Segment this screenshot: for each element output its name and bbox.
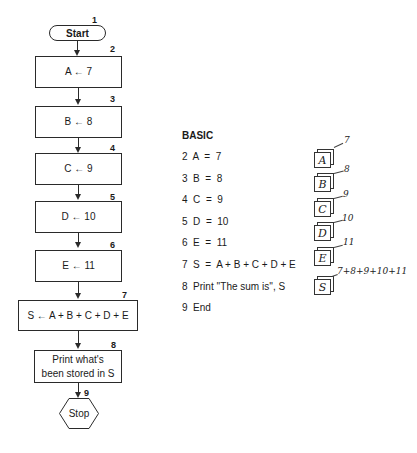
memory-cell-b: B [314,176,331,192]
pointer-arrow-icon [334,245,343,248]
memory-cell-d: D [314,225,331,241]
arrow-down-icon [75,343,81,349]
basic-line-5: 5 D = 10 [182,216,228,227]
basic-line-7: 7 S = A + B + C + D + E [182,259,296,270]
basic-title: BASIC [182,130,213,141]
memory-cell-label: S [314,279,331,295]
pointer-arrow-icon [334,196,343,199]
process-box-a: A ← 7 [35,56,122,88]
step-number-1: 1 [92,15,97,25]
process-box-e: E ← 11 [35,250,122,282]
memory-cell-value: 10 [342,213,353,223]
step-number-3: 3 [110,94,115,104]
step-number-8: 8 [111,340,116,350]
basic-line-8: 8 Print ''The sum is'', S [182,281,285,292]
memory-cell-label: E [314,250,331,266]
basic-line-4: 4 C = 9 [182,194,223,205]
basic-line-2: 2 A = 7 [182,151,221,162]
arrow-down-icon [75,99,81,105]
pointer-arrow-icon [334,143,343,148]
memory-cell-value: 11 [343,237,354,247]
step-number-4: 4 [110,143,115,153]
process-box-sum: S ← A + B + C + D + E [18,300,138,331]
process-box-d: D ← 10 [35,201,122,233]
memory-cell-c: C [314,201,331,217]
process-box-b: B ← 8 [35,106,122,138]
process-box-c: C ← 9 [35,153,122,185]
memory-cell-e: E [314,250,331,266]
step-number-7: 7 [122,290,127,300]
arrow-down-icon [75,194,81,200]
memory-cell-value: 8 [344,164,350,174]
basic-line-3: 3 B = 8 [182,173,222,184]
memory-cell-value: 7 [344,135,350,145]
stop-terminal: Stop [59,398,99,429]
arrow-down-icon [75,293,81,299]
basic-line-9: 9 End [182,302,211,313]
memory-cell-a: A [314,152,331,168]
arrow-down-icon [75,242,81,248]
step-number-9: 9 [84,388,89,398]
pointer-arrow-icon [334,170,344,174]
step-number-2: 2 [110,44,115,54]
step-number-6: 6 [110,240,115,250]
memory-cell-label: B [314,176,331,192]
memory-cell-label: D [314,225,331,241]
memory-cell-value: 7+8+9+10+11 [337,266,407,276]
basic-line-6: 6 E = 11 [182,237,227,248]
memory-cell-value: 9 [343,189,349,199]
memory-cell-s: S [314,279,331,295]
start-terminal: Start [49,25,106,41]
memory-cell-label: C [314,201,331,217]
memory-cell-label: A [314,152,331,168]
output-box-print: Print what's been stored in S [34,350,122,383]
